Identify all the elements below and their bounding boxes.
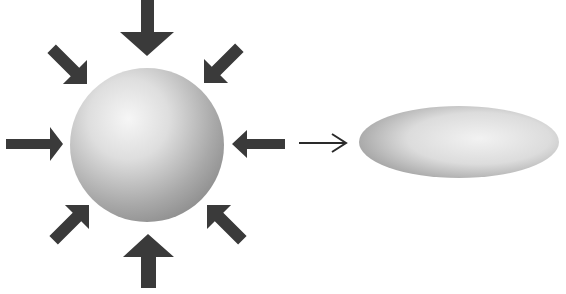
- arrow-bottom-right-icon: [195, 193, 254, 252]
- arrow-bottom-left-icon: [42, 193, 101, 252]
- arrow-left-icon: [6, 127, 63, 161]
- compression-diagram: [0, 0, 566, 294]
- arrow-right-icon: [232, 130, 285, 158]
- arrow-bottom-icon: [123, 234, 174, 288]
- sphere: [70, 68, 224, 222]
- arrow-top-left-icon: [40, 37, 99, 96]
- flattened-ellipsoid: [359, 106, 559, 178]
- arrow-top-icon: [120, 0, 174, 56]
- transition-arrow-icon: [299, 134, 346, 152]
- arrow-top-right-icon: [192, 36, 251, 95]
